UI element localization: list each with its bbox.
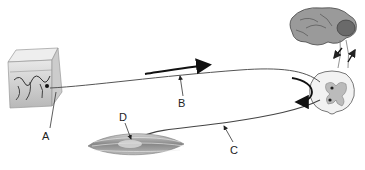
label-d: D bbox=[119, 112, 127, 123]
receptor-icon bbox=[45, 84, 49, 88]
ascending-arrow-icon bbox=[348, 50, 355, 62]
muscle bbox=[88, 134, 184, 155]
brain bbox=[290, 8, 356, 68]
reflex-arc-diagram bbox=[0, 0, 365, 170]
skin-block bbox=[8, 48, 62, 108]
pointer-c bbox=[224, 126, 233, 142]
sensory-direction-arrow-icon bbox=[145, 65, 208, 74]
motor-direction-arrow-icon bbox=[292, 78, 312, 102]
sensory-neuron bbox=[50, 69, 320, 88]
motor-neuron bbox=[140, 100, 320, 137]
label-c: C bbox=[230, 145, 238, 156]
spinal-cord bbox=[310, 71, 355, 114]
label-a: A bbox=[42, 131, 49, 142]
label-b: B bbox=[178, 98, 185, 109]
pointer-b bbox=[180, 76, 183, 96]
